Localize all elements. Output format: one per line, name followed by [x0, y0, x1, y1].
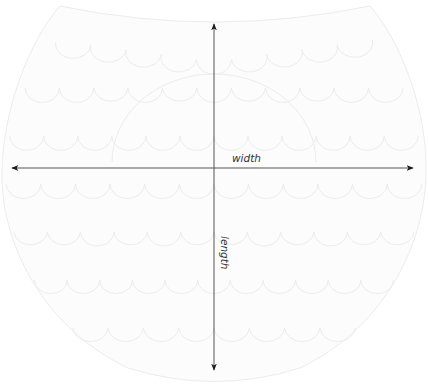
length-label: length — [219, 236, 231, 269]
bib-measurement-diagram: width length — [0, 0, 428, 390]
width-label: width — [232, 152, 261, 164]
